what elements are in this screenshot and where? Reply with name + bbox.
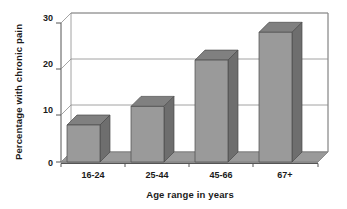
chart-canvas: 30 20 10 0 Percentage with chronic pain [0,0,347,209]
y-tick-label-0: 0 [48,158,53,168]
x-axis: 16-24 25-44 45-66 67+ [61,164,318,181]
y-tick-label-30: 30 [43,13,53,23]
depth-edge-top-left [61,13,71,23]
x-tick-label-67-plus: 67+ [277,170,292,180]
bar-front-face [195,60,228,162]
y-tick-label-20: 20 [43,59,53,69]
x-tick-label-45-66: 45-66 [209,170,232,180]
y-axis-title: Percentage with chronic pain [13,24,24,160]
bar-side-face [292,22,302,162]
bar-45-66[interactable] [195,50,238,162]
x-tick-label-16-24: 16-24 [81,170,104,180]
bar-chart-figure: 30 20 10 0 Percentage with chronic pain [0,0,347,209]
bar-front-face [131,106,164,162]
bar-front-face [67,125,100,162]
bar-side-face [228,50,238,162]
x-tick-label-25-44: 25-44 [145,170,168,180]
bar-front-face [259,32,292,162]
depth-edge-10 [61,105,71,115]
bar-side-face [164,96,174,162]
bar-16-24[interactable] [67,115,110,162]
x-axis-title: Age range in years [146,189,234,200]
bar-25-44[interactable] [131,96,174,162]
y-tick-label-10: 10 [43,105,53,115]
depth-edge-20 [61,59,71,69]
bar-67-plus[interactable] [259,22,302,162]
